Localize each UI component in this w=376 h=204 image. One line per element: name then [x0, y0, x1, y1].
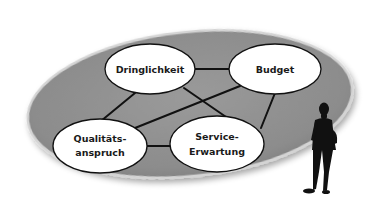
node-qualitaetsanspruch: Qualitäts- anspruch: [53, 119, 147, 173]
node-label-line-2: Erwartung: [189, 146, 245, 157]
node-label-line-1: Service-: [195, 131, 238, 142]
node-label: Dringlichkeit: [116, 64, 185, 75]
diagram-canvas: Dringlichkeit Budget Qualitäts- anspruch…: [0, 0, 376, 204]
node-budget: Budget: [229, 44, 321, 94]
node-label: Budget: [256, 64, 295, 75]
node-service-erwartung: Service- Erwartung: [170, 116, 264, 172]
node-dringlichkeit: Dringlichkeit: [105, 44, 195, 94]
node-label-line-1: Qualitäts-: [74, 133, 127, 144]
node-label-line-2: anspruch: [75, 147, 125, 158]
